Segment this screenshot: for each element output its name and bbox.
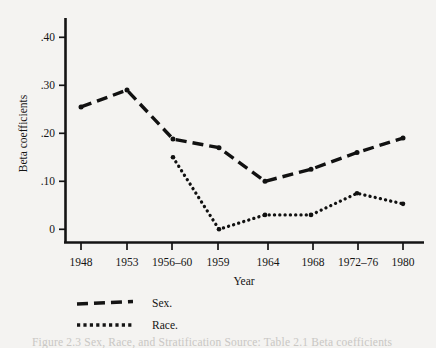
data-point <box>217 227 222 232</box>
data-point <box>263 179 268 184</box>
y-tick-label-40: .40 <box>41 31 56 43</box>
data-point <box>171 137 176 142</box>
x-tick-label-2: 1956–60 <box>152 256 193 268</box>
legend-label-sex: Sex. <box>152 297 172 309</box>
data-point <box>79 104 84 109</box>
data-point <box>171 155 176 160</box>
x-tick-label-3: 1959 <box>207 256 230 268</box>
y-tick-label-0: 0 <box>49 223 55 235</box>
data-point <box>401 136 406 141</box>
x-tick-label-0: 1948 <box>70 256 93 268</box>
data-point <box>355 150 360 155</box>
x-axis-title: Year <box>233 275 254 287</box>
y-axis-title: Beta coefficients <box>17 94 29 172</box>
x-tick-label-1: 1953 <box>116 256 139 268</box>
legend-label-race: Race. <box>152 319 178 331</box>
y-tick-label-10: .10 <box>41 175 56 187</box>
data-point <box>309 213 314 218</box>
y-tick-label-20: .20 <box>41 127 56 139</box>
data-point <box>309 167 314 172</box>
x-tick-label-7: 1980 <box>392 256 415 268</box>
data-point <box>355 191 360 196</box>
data-point <box>263 213 268 218</box>
x-tick-label-5: 1968 <box>302 256 325 268</box>
data-point <box>125 88 130 93</box>
data-point <box>401 202 406 207</box>
x-tick-label-6: 1972–76 <box>338 256 379 268</box>
figure-caption: Figure 2.3 Sex, Race, and Stratification… <box>32 336 432 348</box>
data-point <box>217 145 222 150</box>
y-tick-label-30: .30 <box>41 79 56 91</box>
x-tick-label-4: 1964 <box>257 256 280 268</box>
